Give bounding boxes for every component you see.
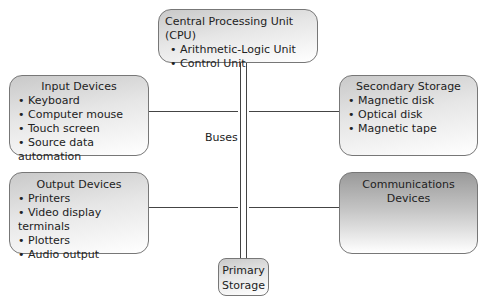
output-item: Printers [18, 192, 145, 206]
output-title: Output Devices [13, 178, 145, 192]
bus-line-right [246, 62, 247, 259]
secondary-item: Magnetic tape [348, 122, 474, 136]
primary-title-2: Storage [221, 278, 266, 293]
secondary-item: Magnetic disk [348, 94, 474, 108]
input-item: Touch screen [18, 122, 145, 136]
secondary-title: Secondary Storage [343, 80, 474, 94]
bus-line-left [240, 62, 241, 259]
output-devices-box: Output Devices Printers Video display te… [9, 172, 149, 254]
buses-label: Buses [205, 131, 238, 144]
secondary-storage-box: Secondary Storage Magnetic disk Optical … [339, 75, 478, 156]
connector-comms [249, 207, 339, 208]
input-item: Source data automation [18, 136, 145, 164]
connector-input [148, 111, 238, 112]
primary-storage-box: Primary Storage [218, 258, 269, 296]
comms-title-1: Communications [343, 178, 474, 192]
input-item: Computer mouse [18, 108, 145, 122]
connector-secondary [249, 111, 339, 112]
output-item: Plotters [18, 234, 145, 248]
input-title: Input Devices [13, 80, 145, 94]
cpu-item: Control Unit [170, 57, 311, 71]
comms-title-2: Devices [343, 192, 474, 206]
cpu-item: Arithmetic-Logic Unit [170, 43, 311, 57]
output-item: Video display terminals [18, 206, 145, 234]
cpu-box: Central Processing Unit (CPU) Arithmetic… [158, 9, 318, 63]
input-devices-box: Input Devices Keyboard Computer mouse To… [9, 75, 149, 156]
cpu-title: Central Processing Unit (CPU) [165, 15, 311, 43]
secondary-item: Optical disk [348, 108, 474, 122]
primary-title-1: Primary [221, 263, 266, 278]
communications-devices-box: Communications Devices [339, 172, 478, 254]
connector-output [148, 207, 238, 208]
output-item: Audio output [18, 248, 145, 262]
input-item: Keyboard [18, 94, 145, 108]
